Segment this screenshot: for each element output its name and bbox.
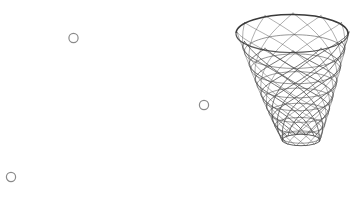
illustration-svg bbox=[0, 0, 358, 210]
net-bottom-ring bbox=[282, 134, 320, 145]
net-group bbox=[236, 13, 349, 146]
circle-marker-1 bbox=[69, 33, 78, 42]
hoop-rim-back-arc bbox=[236, 14, 348, 34]
circle-marker-2 bbox=[199, 100, 208, 109]
scene-canvas bbox=[0, 0, 358, 210]
circle-marker-3 bbox=[6, 172, 15, 181]
net-strand bbox=[272, 32, 349, 144]
circle-markers-group bbox=[6, 33, 208, 181]
